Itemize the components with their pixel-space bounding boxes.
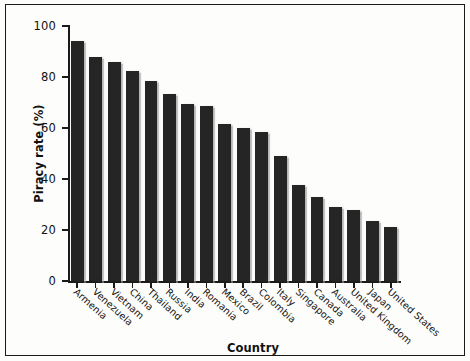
bar: [311, 197, 324, 281]
bar: [384, 227, 397, 281]
bar: [347, 210, 360, 281]
x-axis-title: Country: [0, 341, 470, 355]
bar: [274, 156, 287, 281]
bar: [200, 106, 213, 281]
bar: [181, 104, 194, 281]
x-axis-line: [68, 281, 401, 283]
bar: [237, 128, 250, 281]
y-axis-title: Piracy rate (%): [32, 26, 48, 281]
bar: [366, 221, 379, 281]
bar: [126, 71, 139, 281]
bar: [255, 132, 268, 281]
bar: [163, 94, 176, 281]
plot-area: [68, 26, 400, 281]
bar: [71, 41, 84, 281]
bar: [108, 62, 121, 281]
bar: [145, 81, 158, 281]
bar: [89, 57, 102, 281]
figure: 020406080100 ArmeniaVenezuelaVietnamChin…: [0, 0, 470, 361]
bar: [329, 207, 342, 281]
bar: [292, 185, 305, 281]
bar: [218, 124, 231, 281]
